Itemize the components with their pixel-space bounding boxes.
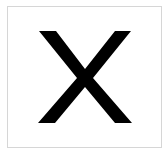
x-icon	[37, 30, 133, 124]
